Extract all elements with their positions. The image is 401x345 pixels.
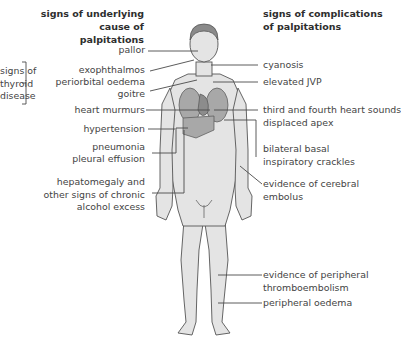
thyroid-group-label: signs of thyroid disease [0, 65, 23, 103]
label-hypertension: hypertension [83, 123, 145, 136]
label-elevated-jvp: elevated JVP [263, 76, 322, 89]
label-peripheral-thromboembolism: evidence of peripheral thromboembolism [263, 269, 369, 294]
label-cerebral-embolus: evidence of cerebral embolus [263, 178, 359, 203]
label-hepatomegaly: hepatomegaly and other signs of chronic … [44, 176, 145, 214]
label-displaced-apex: displaced apex [263, 117, 333, 130]
hep-line3: alcohol excess [44, 201, 145, 214]
left-header: signs of underlying cause of palpitation… [36, 7, 144, 46]
label-pleural-effusion: pleural effusion [72, 153, 145, 166]
cerebral-line1: evidence of cerebral [263, 178, 359, 191]
hep-line1: hepatomegaly and [44, 176, 145, 189]
label-periorbital-oedema: periorbital oedema [56, 76, 145, 89]
label-peripheral-oedema: peripheral oedema [263, 297, 352, 310]
right-header-line2: of palpitations [263, 20, 383, 33]
crackles-line2: inspiratory crackles [263, 156, 355, 169]
left-header-line1: signs of underlying [36, 7, 144, 20]
right-header: signs of complications of palpitations [263, 7, 383, 33]
label-exophthalmos: exophthalmos [79, 64, 145, 77]
thyroid-line1: signs of [0, 65, 23, 78]
label-heart-sounds: third and fourth heart sounds [263, 104, 401, 117]
thrombo-line2: thromboembolism [263, 282, 369, 295]
thyroid-line3: disease [0, 90, 23, 103]
label-pneumonia: pneumonia [92, 141, 145, 154]
label-basal-crackles: bilateral basal inspiratory crackles [263, 143, 355, 168]
label-pallor: pallor [119, 44, 146, 57]
thyroid-line2: thyroid [0, 78, 23, 91]
label-goitre: goitre [118, 88, 145, 101]
hep-line2: other signs of chronic [44, 189, 145, 202]
label-cyanosis: cyanosis [263, 59, 304, 72]
thrombo-line1: evidence of peripheral [263, 269, 369, 282]
crackles-line1: bilateral basal [263, 143, 355, 156]
left-header-line2: cause of palpitations [36, 20, 144, 46]
cerebral-line2: embolus [263, 191, 359, 204]
right-header-line1: signs of complications [263, 7, 383, 20]
label-heart-murmurs: heart murmurs [74, 104, 145, 117]
